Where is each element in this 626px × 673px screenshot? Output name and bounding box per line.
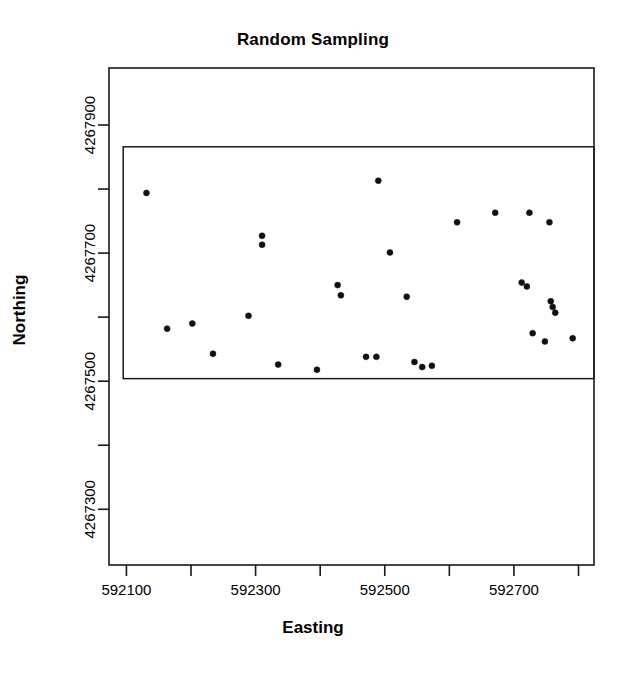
y-tick-label-group: 4267300426750042677004267900 xyxy=(81,96,98,539)
data-point xyxy=(526,210,532,216)
data-point xyxy=(259,233,265,239)
data-point xyxy=(314,367,320,373)
data-point-group xyxy=(143,178,575,373)
data-point xyxy=(542,338,548,344)
x-tick-label: 592300 xyxy=(231,581,281,598)
data-point xyxy=(530,330,536,336)
data-point xyxy=(189,321,195,327)
data-point xyxy=(548,298,554,304)
sampling-region-rect xyxy=(123,147,594,379)
data-point xyxy=(164,326,170,332)
x-tick-label: 592100 xyxy=(101,581,151,598)
data-point xyxy=(546,219,552,225)
data-point xyxy=(429,363,435,369)
data-point xyxy=(143,190,149,196)
data-point xyxy=(552,310,558,316)
data-point xyxy=(275,362,281,368)
data-point xyxy=(524,283,530,289)
data-point xyxy=(375,178,381,184)
y-tick-label: 4267300 xyxy=(81,480,98,538)
data-point xyxy=(338,292,344,298)
scatter-plot-figure: Random Sampling Northing Easting 5921005… xyxy=(0,0,626,673)
plot-canvas: 592100592300592500592700 426730042675004… xyxy=(0,0,626,673)
data-point xyxy=(404,294,410,300)
data-point xyxy=(519,280,525,286)
data-point xyxy=(245,313,251,319)
data-point xyxy=(454,219,460,225)
x-tick-label-group: 592100592300592500592700 xyxy=(101,581,539,598)
data-point xyxy=(492,210,498,216)
data-point xyxy=(411,359,417,365)
x-tick-label: 592700 xyxy=(489,581,539,598)
data-point xyxy=(373,354,379,360)
data-point xyxy=(570,335,576,341)
data-point xyxy=(419,364,425,370)
axis-frame xyxy=(109,68,594,565)
sampling-region-boundary xyxy=(123,147,594,379)
data-point xyxy=(259,242,265,248)
data-point xyxy=(335,282,341,288)
x-axis-ticks xyxy=(126,565,578,576)
data-point xyxy=(550,304,556,310)
x-tick-label: 592500 xyxy=(360,581,410,598)
data-point xyxy=(387,249,393,255)
y-tick-label: 4267900 xyxy=(81,96,98,154)
data-point xyxy=(363,354,369,360)
y-tick-label: 4267500 xyxy=(81,352,98,410)
y-tick-label: 4267700 xyxy=(81,224,98,282)
y-axis-ticks xyxy=(98,125,109,509)
data-point xyxy=(210,351,216,357)
